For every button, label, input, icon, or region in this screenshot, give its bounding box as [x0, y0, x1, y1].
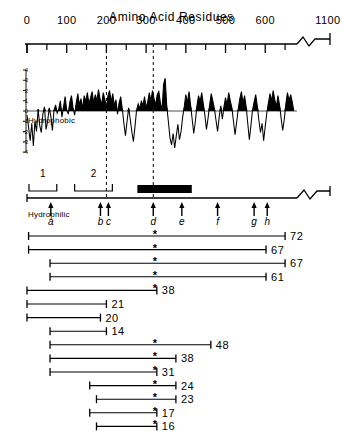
clone-asterisk: * [153, 283, 157, 294]
clone-asterisk: * [153, 351, 157, 362]
axis-tick-0: 0 [24, 14, 31, 26]
axis-tick-200: 200 [97, 14, 117, 26]
hydropathy-clone-map-figure: Amino Acid Residues 01002003004005006001… [0, 0, 343, 439]
clone-asterisk: * [153, 256, 157, 267]
clone-length-label: 67 [271, 244, 284, 256]
clone-length-label: 72 [290, 230, 303, 242]
clone-length-label: 48 [216, 339, 229, 351]
clone-length-label: 16 [162, 420, 175, 432]
axis-tick-100: 100 [57, 14, 77, 26]
clone-length-label: 31 [162, 366, 175, 378]
clone-asterisk: * [153, 242, 157, 253]
residue-axis: 01002003004005006001100 [0, 26, 343, 54]
axis-tick-500: 500 [216, 14, 236, 26]
clone-length-label: 61 [271, 271, 284, 283]
clone-asterisk: * [153, 365, 157, 376]
clone-asterisk: * [153, 419, 157, 430]
hydropathy-trace [0, 56, 343, 168]
axis-tick-300: 300 [136, 14, 156, 26]
clone-asterisk: * [153, 378, 157, 389]
clone-length-label: 24 [181, 380, 194, 392]
hydropathy-plot: Hydrophobic Hydrophilic 43210-1-2-3-4 [0, 56, 343, 168]
clone-asterisk: * [153, 229, 157, 240]
clone-length-label: 17 [162, 407, 175, 419]
clone-asterisk: * [153, 269, 157, 280]
clone-length-label: 38 [181, 352, 194, 364]
clone-length-label: 20 [105, 312, 118, 324]
clone-length-label: 23 [181, 393, 194, 405]
axis-tick-600: 600 [255, 14, 275, 26]
protein-backbone [0, 168, 343, 226]
clone-length-label: 14 [111, 325, 124, 337]
axis-tick-1100: 1100 [315, 14, 340, 26]
axis-ruler [0, 26, 343, 54]
clone-length-label: 21 [111, 298, 124, 310]
axis-tick-400: 400 [176, 14, 196, 26]
figure-title: Amino Acid Residues [0, 10, 343, 24]
clone-asterisk: * [153, 337, 157, 348]
clone-rows: 726767613821201448383124231716 *********… [0, 226, 343, 439]
clone-asterisk: * [153, 405, 157, 416]
clone-length-label: 38 [162, 284, 175, 296]
clone-asterisk: * [153, 392, 157, 403]
clone-length-label: 67 [290, 257, 303, 269]
domain-map: 12 abcdefgh [0, 168, 343, 226]
